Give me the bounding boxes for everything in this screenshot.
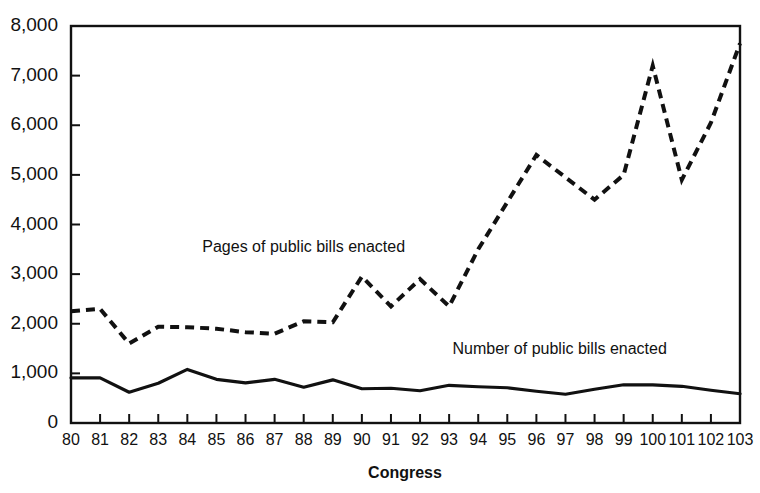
line-chart: 01,0002,0003,0004,0005,0006,0007,0008,00…	[0, 0, 760, 493]
x-axis-tick-label: 86	[237, 431, 255, 448]
series-line-pages-of-public-bills-enacted	[71, 43, 740, 343]
chart-container: 01,0002,0003,0004,0005,0006,0007,0008,00…	[0, 0, 760, 493]
y-axis-tick-label: 1,000	[10, 361, 58, 382]
x-axis-tick-label: 87	[266, 431, 284, 448]
y-axis-tick-label: 0	[47, 411, 58, 432]
x-axis-tick-label: 92	[411, 431, 429, 448]
y-axis-tick-label: 7,000	[10, 64, 58, 85]
x-axis-tick-label: 85	[208, 431, 226, 448]
x-axis-tick-labels: 8081828384858687888990919293949596979899…	[62, 431, 753, 448]
x-axis-tick-label: 82	[120, 431, 138, 448]
x-axis-tick-label: 94	[469, 431, 487, 448]
y-axis-tick-label: 5,000	[10, 163, 58, 184]
x-axis-tick-label: 81	[91, 431, 109, 448]
x-axis-title: Congress	[368, 464, 442, 481]
y-axis-tick-label: 3,000	[10, 262, 58, 283]
series-line-number-of-public-bills-enacted	[71, 369, 740, 394]
x-axis-ticks	[100, 414, 711, 423]
y-axis-tick-label: 2,000	[10, 312, 58, 333]
x-axis-tick-label: 80	[62, 431, 80, 448]
plot-frame	[71, 26, 740, 423]
x-axis-tick-label: 90	[353, 431, 371, 448]
x-axis-tick-label: 89	[324, 431, 342, 448]
x-axis-tick-label: 97	[557, 431, 575, 448]
x-axis-tick-label: 84	[178, 431, 196, 448]
x-axis-tick-label: 98	[586, 431, 604, 448]
series-annotation-number: Number of public bills enacted	[452, 340, 666, 357]
x-axis-tick-label: 95	[498, 431, 516, 448]
x-axis-tick-label: 99	[615, 431, 633, 448]
x-axis-tick-label: 83	[149, 431, 167, 448]
x-axis-tick-label: 91	[382, 431, 400, 448]
y-axis-tick-label: 8,000	[10, 14, 58, 35]
y-axis-ticks	[71, 76, 80, 374]
y-axis-tick-labels: 01,0002,0003,0004,0005,0006,0007,0008,00…	[10, 14, 58, 432]
y-axis-tick-label: 6,000	[10, 113, 58, 134]
x-axis-tick-label: 103	[727, 431, 754, 448]
x-axis-tick-label: 93	[440, 431, 458, 448]
x-axis-tick-label: 96	[527, 431, 545, 448]
y-axis-tick-label: 4,000	[10, 213, 58, 234]
x-axis-tick-label: 102	[698, 431, 725, 448]
x-axis-tick-label: 88	[295, 431, 313, 448]
x-axis-tick-label: 100	[639, 431, 666, 448]
x-axis-tick-label: 101	[668, 431, 695, 448]
series-annotation-pages: Pages of public bills enacted	[202, 238, 405, 255]
